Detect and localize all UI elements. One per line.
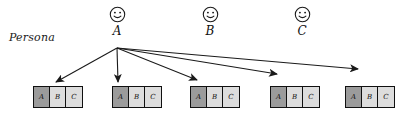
cell-a[interactable]: A	[34, 87, 50, 107]
cell-b[interactable]: B	[207, 87, 223, 107]
document-group-4[interactable]: ABC	[345, 86, 395, 108]
arrow-persona-a-to-group-1	[117, 48, 118, 82]
cell-a[interactable]: A	[113, 87, 129, 107]
document-group-1[interactable]: ABC	[112, 86, 162, 108]
persona-row-label: Persona	[9, 31, 55, 44]
persona-a-arrows	[56, 48, 358, 82]
cell-b[interactable]: B	[50, 87, 66, 107]
arrow-persona-a-to-group-0	[56, 48, 117, 82]
persona-label-c: C	[279, 24, 325, 38]
cell-c[interactable]: C	[145, 87, 161, 107]
persona-node-c[interactable]: C	[279, 6, 325, 38]
document-group-3[interactable]: ABC	[270, 86, 320, 108]
cell-a[interactable]: A	[346, 87, 362, 107]
cell-c[interactable]: C	[66, 87, 82, 107]
cell-a[interactable]: A	[271, 87, 287, 107]
persona-label-a: A	[94, 24, 140, 38]
document-group-2[interactable]: ABC	[190, 86, 240, 108]
arrow-persona-a-to-group-2	[117, 48, 197, 80]
persona-node-a[interactable]: A	[94, 6, 140, 38]
cell-b[interactable]: B	[129, 87, 145, 107]
cell-b[interactable]: B	[362, 87, 378, 107]
persona-label-b: B	[187, 24, 233, 38]
smiley-face-icon	[109, 6, 126, 23]
cell-a[interactable]: A	[191, 87, 207, 107]
arrow-persona-a-to-group-3	[117, 48, 277, 74]
cell-c[interactable]: C	[303, 87, 319, 107]
arrow-persona-a-to-group-4	[117, 48, 358, 69]
cell-b[interactable]: B	[287, 87, 303, 107]
persona-node-b[interactable]: B	[187, 6, 233, 38]
cell-c[interactable]: C	[223, 87, 239, 107]
smiley-face-icon	[294, 6, 311, 23]
persona-diagram-canvas: Persona A B C ABCABCABCABCABC	[0, 0, 411, 119]
cell-c[interactable]: C	[378, 87, 394, 107]
smiley-face-icon	[202, 6, 219, 23]
document-group-0[interactable]: ABC	[33, 86, 83, 108]
